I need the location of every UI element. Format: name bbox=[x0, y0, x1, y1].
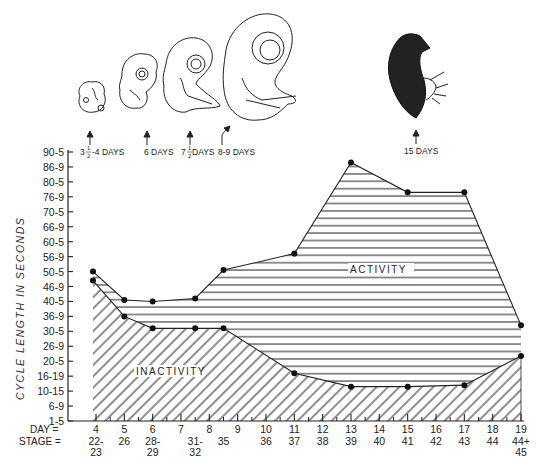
stage-tick-label: 38 bbox=[317, 435, 329, 447]
day-row-label: DAY = bbox=[30, 424, 58, 435]
chart-figure: 3 1 2 -4 DAYS 6 DAYS 7 1 2 DAYS 8-9 DAYS… bbox=[0, 0, 544, 464]
chick-icon-day-15 bbox=[388, 34, 448, 118]
day-tick-label: 14 bbox=[373, 423, 385, 435]
day-tick-label: 16 bbox=[430, 423, 442, 435]
embryo-icon-day-7-5 bbox=[163, 38, 220, 112]
y-tick-label: 76-9 bbox=[43, 191, 64, 203]
y-tick-label: 46-9 bbox=[43, 281, 64, 293]
y-tick-label: 30-5 bbox=[43, 325, 64, 337]
day-tick-label: 8 bbox=[206, 423, 212, 435]
y-tick-label: 50-5 bbox=[43, 266, 64, 278]
data-point bbox=[291, 251, 297, 257]
stage-tick-label: 45 bbox=[515, 446, 527, 458]
stage-tick-label: 32 bbox=[189, 446, 201, 458]
data-point bbox=[461, 189, 467, 195]
illus-label-3-rest: DAYS bbox=[192, 147, 215, 157]
day-tick-label: 9 bbox=[235, 423, 241, 435]
data-point bbox=[405, 384, 411, 390]
day-tick-label: 13 bbox=[345, 423, 357, 435]
y-tick-label: 20-5 bbox=[43, 355, 64, 367]
stage-tick-label: 41 bbox=[402, 435, 414, 447]
stage-tick-label: 40 bbox=[373, 435, 385, 447]
y-tick-label: 70-5 bbox=[43, 206, 64, 218]
illustration-labels: 3 1 2 -4 DAYS 6 DAYS 7 1 2 DAYS 8-9 DAYS… bbox=[80, 126, 439, 159]
data-point bbox=[348, 384, 354, 390]
stage-tick-label: 23 bbox=[90, 446, 102, 458]
day-tick-label: 5 bbox=[121, 423, 127, 435]
day-tick-label: 12 bbox=[317, 423, 329, 435]
day-tick-label: 11 bbox=[289, 423, 300, 435]
illus-label-3-whole: 7 bbox=[181, 147, 186, 157]
embryo-icon-day-8-9 bbox=[223, 14, 296, 120]
data-point bbox=[90, 278, 96, 284]
data-point bbox=[192, 295, 198, 301]
day-tick-label: 15 bbox=[402, 423, 414, 435]
stage-tick-label: 29 bbox=[147, 446, 159, 458]
data-point bbox=[221, 267, 227, 273]
stage-tick-label: 36 bbox=[260, 435, 272, 447]
data-point bbox=[121, 297, 127, 303]
data-point bbox=[461, 382, 467, 388]
illus-label-1-den: 2 bbox=[87, 153, 91, 159]
y-tick-label: 36-9 bbox=[43, 310, 64, 322]
stage-tick-label: 26 bbox=[118, 435, 130, 447]
data-point bbox=[150, 325, 156, 331]
y-tick-label: 16-19 bbox=[37, 370, 64, 382]
embryo-icon-day-6 bbox=[119, 54, 157, 109]
data-point bbox=[405, 189, 411, 195]
arrow-up-icon bbox=[87, 126, 419, 145]
y-tick-label: 60-5 bbox=[43, 236, 64, 248]
y-tick-label: 80-5 bbox=[43, 176, 64, 188]
y-tick-label: 26-9 bbox=[43, 340, 64, 352]
activity-label: ACTIVITY bbox=[350, 264, 407, 275]
data-point bbox=[348, 159, 354, 165]
y-tick-label: 56-9 bbox=[43, 251, 64, 263]
day-tick-label: 19 bbox=[515, 423, 527, 435]
day-tick-label: 4 bbox=[93, 423, 99, 435]
illus-label-1-num: 1 bbox=[87, 145, 91, 151]
y-tick-label: 6-9 bbox=[49, 400, 64, 412]
day-tick-label: 18 bbox=[487, 423, 499, 435]
data-point bbox=[291, 370, 297, 376]
y-tick-label: 86-9 bbox=[43, 161, 64, 173]
y-tick-label: 90-5 bbox=[43, 146, 64, 158]
data-point bbox=[221, 325, 227, 331]
day-tick-label: 17 bbox=[458, 423, 470, 435]
day-tick-label: 6 bbox=[150, 423, 156, 435]
data-point bbox=[518, 322, 524, 328]
data-point bbox=[192, 325, 198, 331]
illus-label-4: 8-9 DAYS bbox=[218, 147, 255, 157]
day-tick-label: 10 bbox=[260, 423, 272, 435]
stage-tick-label: 37 bbox=[288, 435, 300, 447]
illus-label-5: 15 DAYS bbox=[404, 146, 439, 156]
illus-label-1-whole: 3 bbox=[80, 147, 85, 157]
stage-tick-label: 42 bbox=[430, 435, 442, 447]
illus-label-1-rest: -4 DAYS bbox=[92, 147, 125, 157]
y-axis-title: CYCLE LENGTH IN SECONDS bbox=[14, 217, 26, 400]
stage-tick-label: 39 bbox=[345, 435, 357, 447]
y-tick-label: 66-9 bbox=[43, 221, 64, 233]
plot-area bbox=[90, 159, 524, 421]
stage-tick-label: 35 bbox=[218, 435, 230, 447]
embryo-icon-day-3-5 bbox=[79, 82, 105, 113]
data-point bbox=[121, 313, 127, 319]
stage-row-label: STAGE = bbox=[19, 436, 61, 447]
illustrations bbox=[79, 14, 448, 120]
illus-label-2: 6 DAYS bbox=[144, 147, 174, 157]
data-point bbox=[150, 298, 156, 304]
data-point bbox=[518, 353, 524, 359]
y-tick-label: 40-5 bbox=[43, 295, 64, 307]
inactivity-label: INACTIVITY bbox=[136, 366, 206, 377]
day-tick-label: 7 bbox=[178, 423, 184, 435]
stage-tick-label: 43 bbox=[458, 435, 470, 447]
data-point bbox=[90, 269, 96, 275]
stage-tick-label: 44 bbox=[487, 435, 499, 447]
y-tick-label: 10-15 bbox=[37, 385, 64, 397]
